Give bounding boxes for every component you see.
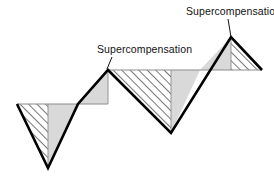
leader-line-lower xyxy=(107,57,112,69)
label-supercompensation-lower: Supercompensation xyxy=(97,43,192,55)
leader-line-upper xyxy=(228,19,231,37)
label-supercompensation-upper: Supercompensation xyxy=(186,5,274,17)
region-peak-2-left xyxy=(200,37,231,70)
supercompensation-figure: Supercompensation Supercompensation xyxy=(0,0,274,178)
region-valley-2-right xyxy=(171,70,200,133)
figure-canvas: Supercompensation Supercompensation xyxy=(0,0,274,178)
